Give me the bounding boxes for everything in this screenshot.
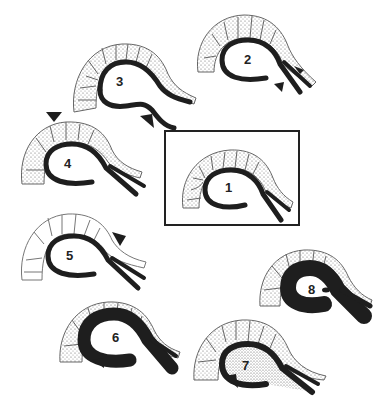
arrow-icon <box>224 374 238 388</box>
panel-label: 1 <box>225 180 232 195</box>
panel-label: 5 <box>66 248 73 263</box>
panel-label: 6 <box>112 330 119 345</box>
arrow-icon <box>46 112 62 122</box>
panel-2: 2 <box>192 12 322 97</box>
lumen-wall <box>100 62 190 102</box>
panel-label: 3 <box>116 74 123 89</box>
panel-8: 8 <box>258 248 378 328</box>
inclusion-dot <box>322 288 330 293</box>
panel-label: 2 <box>244 52 251 67</box>
panel-label: 4 <box>64 156 72 171</box>
panel-5: 5 <box>14 208 154 293</box>
panel-7: 7 <box>190 318 330 403</box>
panel-4: 4 <box>18 112 148 202</box>
panel-1: 1 <box>175 140 295 225</box>
panel-6: 6 <box>58 300 188 380</box>
panel-label: 8 <box>308 282 315 297</box>
arrow-icon <box>274 82 284 92</box>
panel-label: 7 <box>242 358 249 373</box>
